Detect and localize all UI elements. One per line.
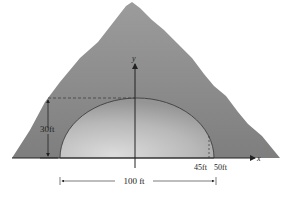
tunnel-diagram: x y 30ft 45ft 50ft 100 ft — [0, 0, 285, 202]
x-axis-label: x — [256, 154, 261, 163]
height-label: 30ft — [40, 124, 55, 134]
width-label: 100 ft — [123, 176, 145, 186]
x45-label: 45ft — [194, 163, 208, 172]
x50-label: 50ft — [214, 163, 228, 172]
y-axis-label: y — [131, 54, 136, 63]
